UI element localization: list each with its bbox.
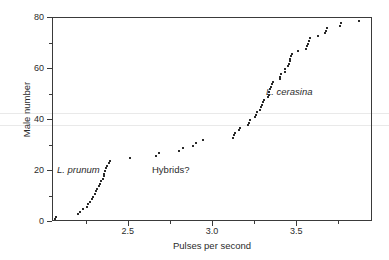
x-tick-minor — [254, 221, 255, 224]
data-point — [287, 65, 289, 67]
data-point — [106, 165, 108, 167]
data-point — [98, 185, 100, 187]
data-point — [99, 183, 101, 185]
data-point — [309, 37, 311, 39]
data-point — [259, 109, 261, 111]
data-point — [279, 78, 281, 80]
data-point — [104, 170, 106, 172]
data-point — [284, 71, 286, 73]
data-point — [254, 116, 256, 118]
x-tick-label: 3.0 — [197, 226, 227, 236]
data-point — [233, 134, 235, 136]
data-point — [249, 119, 251, 121]
data-point — [100, 180, 102, 182]
x-tick-label: 2.5 — [113, 226, 143, 236]
data-point — [182, 147, 184, 149]
data-point — [108, 162, 110, 164]
scatter-plot-figure: Male number Pulses per second 020406080 … — [0, 0, 389, 260]
annotation-hybrids: Hybrids? — [152, 164, 190, 175]
data-point — [261, 104, 263, 106]
data-point — [79, 211, 81, 213]
y-tick-label: 0 — [20, 216, 44, 226]
x-tick-minor — [86, 221, 87, 224]
data-point — [238, 129, 240, 131]
data-point — [288, 63, 290, 65]
data-point — [290, 55, 292, 57]
data-point — [87, 203, 89, 205]
data-point — [317, 35, 319, 37]
data-point — [103, 175, 105, 177]
data-point — [263, 99, 265, 101]
data-point — [195, 142, 197, 144]
data-point — [339, 25, 341, 27]
data-point — [260, 106, 262, 108]
x-tick-minor — [338, 221, 339, 224]
data-point — [232, 137, 234, 139]
y-tick-label: 60 — [20, 63, 44, 73]
data-point — [289, 60, 291, 62]
data-point — [308, 40, 310, 42]
data-point — [202, 139, 204, 141]
data-point — [289, 58, 291, 60]
data-point — [256, 111, 258, 113]
data-point — [324, 32, 326, 34]
data-point — [129, 157, 131, 159]
data-point — [178, 150, 180, 152]
data-point — [91, 198, 93, 200]
data-point — [307, 43, 309, 45]
data-point — [305, 48, 307, 50]
plot-area — [52, 17, 372, 221]
data-point — [109, 160, 111, 162]
y-tick-label: 40 — [20, 114, 44, 124]
data-point — [262, 101, 264, 103]
x-axis-title: Pulses per second — [52, 240, 372, 251]
data-point — [247, 124, 249, 126]
data-point — [158, 152, 160, 154]
annotation-l-cerasina: L. cerasina — [266, 86, 312, 97]
data-point — [272, 81, 274, 83]
data-point — [326, 27, 328, 29]
data-point — [239, 127, 241, 129]
data-point — [105, 167, 107, 169]
data-point — [325, 30, 327, 32]
data-point — [234, 132, 236, 134]
x-tick-label: 3.5 — [281, 226, 311, 236]
data-point — [89, 201, 91, 203]
data-point — [306, 45, 308, 47]
data-point — [95, 190, 97, 192]
data-point — [291, 53, 293, 55]
data-point — [340, 22, 342, 24]
data-point — [54, 218, 56, 220]
annotation-l-prunum: L. prunum — [57, 164, 100, 175]
data-point — [297, 50, 299, 52]
data-point — [192, 145, 194, 147]
y-tick-label: 80 — [20, 12, 44, 22]
data-point — [92, 196, 94, 198]
data-point — [102, 178, 104, 180]
data-point — [77, 213, 79, 215]
y-tick-major — [47, 221, 52, 222]
x-tick-minor — [170, 221, 171, 224]
data-point — [255, 114, 257, 116]
data-point — [284, 68, 286, 70]
data-point — [82, 208, 84, 210]
data-point — [94, 193, 96, 195]
data-point — [103, 173, 105, 175]
y-tick-label: 20 — [20, 165, 44, 175]
data-point — [279, 76, 281, 78]
data-point — [155, 155, 157, 157]
data-point — [271, 83, 273, 85]
data-point — [248, 122, 250, 124]
data-point — [96, 188, 98, 190]
data-point — [358, 20, 360, 22]
data-point — [55, 216, 57, 218]
data-point — [280, 73, 282, 75]
data-point — [86, 206, 88, 208]
